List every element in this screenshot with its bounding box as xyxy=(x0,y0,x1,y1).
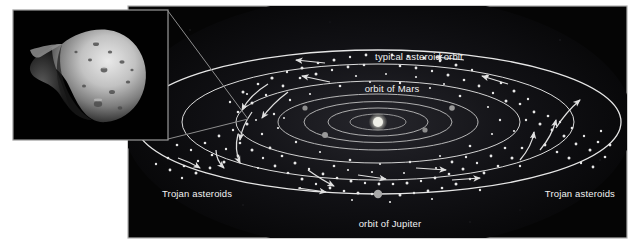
asteroid-photograph-inset xyxy=(13,10,168,140)
jupiter xyxy=(374,190,382,198)
planet-outer-right xyxy=(449,105,455,111)
label-trojan-asteroids-right: Trojan asteroids xyxy=(545,188,615,199)
label-orbit-of-jupiter: orbit of Jupiter xyxy=(359,218,422,229)
planet-inner-right xyxy=(422,127,427,132)
sun xyxy=(373,117,383,127)
planet-mars xyxy=(322,132,328,138)
solar-system-panel: typical asteroid orbit orbit of Mars orb… xyxy=(123,0,633,249)
planet-outer-left xyxy=(302,105,307,110)
figure-root: typical asteroid orbit orbit of Mars orb… xyxy=(0,0,641,249)
label-orbit-of-mars: orbit of Mars xyxy=(365,83,420,94)
label-typical-asteroid-orbit: typical asteroid orbit xyxy=(375,51,463,62)
label-trojan-asteroids-left: Trojan asteroids xyxy=(162,188,232,199)
